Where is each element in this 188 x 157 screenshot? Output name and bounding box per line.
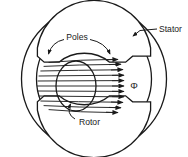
- flux-line: [39, 75, 118, 76]
- machine-cross-section-figure: Φ Stator Poles Rotor: [0, 0, 188, 157]
- pole-upper-shape: [37, 0, 150, 62]
- flux-line: [44, 64, 117, 66]
- stator-label: Stator: [159, 24, 182, 34]
- pole-upper-arc: [37, 0, 150, 62]
- diagram-svg: Φ Stator Poles Rotor: [0, 0, 188, 157]
- flux-line: [40, 70, 118, 71]
- rotor-label: Rotor: [79, 117, 100, 127]
- poles-label: Poles: [66, 32, 88, 42]
- flux-symbol-label: Φ: [130, 80, 138, 91]
